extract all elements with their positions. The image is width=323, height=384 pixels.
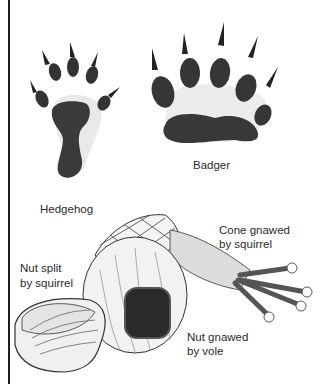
hedgehog-label: Hedgehog (40, 202, 93, 216)
split-nut-label-line1: Nut split (20, 261, 62, 275)
split-nut-label-line2: by squirrel (20, 276, 73, 290)
split-nut-icon (15, 299, 105, 372)
badger-label: Badger (193, 158, 230, 172)
vole-nut-label-line1: Nut gnawed (187, 330, 248, 344)
illustration (0, 0, 323, 384)
hedgehog-print-icon (30, 42, 120, 178)
badger-print-icon (148, 22, 278, 143)
vole-nut-label-line2: by vole (187, 344, 223, 358)
cone-label-line1: Cone gnawed (219, 223, 290, 237)
cone-label-line2: by squirrel (219, 237, 272, 251)
